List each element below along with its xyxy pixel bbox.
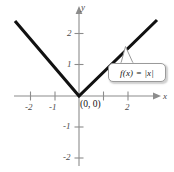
callout-leader-tail bbox=[121, 47, 133, 64]
x-tick-label-neg1: -1 bbox=[49, 103, 57, 112]
y-tick-label-neg1: -1 bbox=[63, 122, 71, 131]
function-callout-label: f(x) = |x| bbox=[120, 68, 154, 78]
x-tick-label-neg2: -2 bbox=[25, 103, 33, 112]
y-tick-label-pos1: 1 bbox=[67, 60, 72, 69]
origin-point-label: (0, 0) bbox=[80, 100, 101, 110]
y-tick-label-neg2: -2 bbox=[63, 153, 71, 162]
x-axis-arrow-icon bbox=[153, 93, 161, 100]
x-tick-label-pos2: 2 bbox=[125, 103, 130, 112]
absolute-value-function-graph: -2 -1 2 2 1 -1 -2 x y (0, 0) f(x) = |x| bbox=[0, 0, 174, 172]
y-axis-label: y bbox=[81, 3, 85, 12]
y-tick-label-pos2: 2 bbox=[67, 29, 72, 38]
absolute-value-curve bbox=[15, 20, 157, 96]
plot-canvas bbox=[0, 0, 174, 172]
function-callout-box: f(x) = |x| bbox=[108, 63, 166, 82]
x-axis-label: x bbox=[163, 92, 167, 101]
